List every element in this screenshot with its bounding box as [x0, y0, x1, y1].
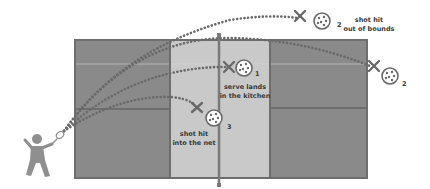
fault-number-1: 1	[255, 70, 260, 78]
label-kitchen-line1: serve lands	[224, 83, 266, 91]
label-kitchen-line2: in the kitchen	[220, 92, 271, 100]
net-post-bottom	[217, 183, 221, 187]
player-icon	[25, 130, 65, 177]
pickleball-icon	[206, 110, 222, 126]
x-mark-icon	[295, 11, 305, 21]
fault-number-2-right: 2	[402, 80, 407, 88]
pickleball-icon	[382, 68, 398, 84]
fault-number-3: 3	[227, 123, 232, 131]
label-out-of-bounds-line1: shot hit	[355, 16, 383, 24]
net-post-top	[217, 33, 221, 37]
label-net-line1: shot hit	[180, 130, 208, 138]
pickleball-fault-diagram: 2 shot hit out of bounds 2 1 serve lands…	[0, 0, 430, 189]
pickleball-icon	[314, 13, 330, 29]
label-net-line2: into the net	[172, 139, 215, 147]
fault-number-2-top: 2	[337, 21, 342, 29]
label-out-of-bounds-line2: out of bounds	[344, 25, 395, 33]
court	[75, 33, 367, 187]
x-mark-icon	[369, 61, 379, 71]
pickleball-icon	[236, 60, 252, 76]
